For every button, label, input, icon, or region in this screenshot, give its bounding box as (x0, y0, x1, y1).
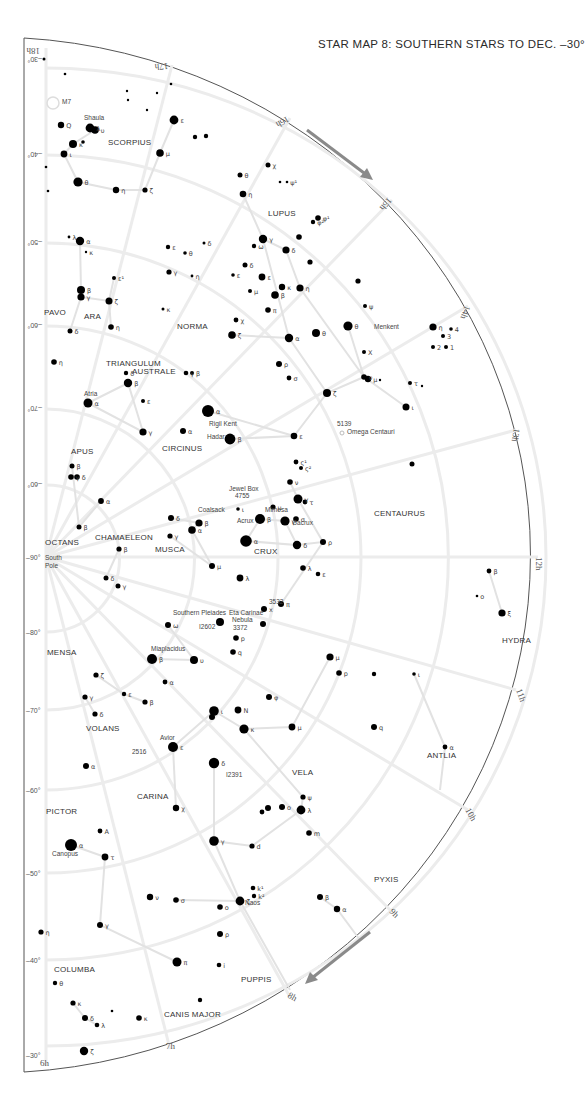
constellation-name: CRUX (254, 547, 278, 556)
star (82, 1015, 88, 1021)
hour-label: 17h (154, 61, 169, 72)
star-label: η (248, 191, 252, 199)
star (180, 428, 186, 434)
star (243, 263, 248, 268)
star (202, 405, 214, 417)
star-label: ρ (328, 539, 332, 547)
star (108, 324, 114, 330)
star (146, 109, 148, 111)
star-label: m (314, 830, 320, 838)
star (64, 73, 67, 76)
star (476, 595, 479, 598)
object-name: Nebula (232, 616, 253, 623)
star-label: β (77, 463, 81, 471)
star-label: μ (373, 376, 377, 384)
star (80, 1047, 88, 1055)
object-name: Mimosa (265, 506, 288, 513)
star-label: 1 (450, 344, 454, 352)
star-label: γ (90, 694, 94, 702)
constellation-name: ANTLIA (427, 751, 457, 760)
declination-label: –70° (27, 405, 42, 412)
declination-label: –60° (26, 787, 41, 794)
star-label: Χ (368, 349, 373, 357)
star (276, 361, 282, 367)
star-label: λ (308, 565, 312, 573)
star (209, 836, 219, 846)
star (294, 495, 303, 504)
star (139, 428, 146, 435)
star-label: q (379, 724, 383, 732)
star (124, 379, 132, 387)
star (113, 187, 119, 193)
star-label: κ (251, 726, 255, 734)
star (188, 526, 196, 534)
star (334, 906, 340, 912)
declination-label: –30° (27, 56, 42, 63)
star (198, 998, 202, 1002)
star (265, 307, 271, 313)
constellation-name: COLUMBA (54, 965, 95, 974)
star (239, 724, 248, 733)
star-label: η (439, 324, 443, 332)
star (53, 981, 57, 985)
declination-label: –90° (26, 554, 41, 561)
star-label: δ (90, 1015, 94, 1023)
star (190, 656, 198, 664)
object-name: Coalsack (198, 506, 225, 513)
star-label: p (344, 670, 348, 678)
star-label: γ (269, 236, 273, 244)
object-name: 3372 (233, 624, 248, 631)
star (168, 515, 174, 521)
star (111, 1010, 114, 1013)
star (193, 135, 197, 139)
declination-label: –60° (27, 481, 42, 488)
star (124, 371, 128, 375)
star-label: κ (78, 1000, 82, 1008)
star (85, 251, 87, 253)
star-label: γ (149, 429, 153, 437)
star-label: α (216, 408, 220, 416)
star-label: π (286, 601, 290, 609)
star-label: ο (287, 804, 291, 812)
star-label: ν (369, 374, 373, 382)
star-label: γ (105, 922, 109, 930)
star (147, 894, 153, 900)
star (296, 284, 303, 291)
star (122, 692, 126, 696)
star-label: ε (147, 398, 151, 406)
star-label: β (159, 656, 163, 664)
star (165, 622, 171, 628)
star-label: χ (273, 162, 277, 170)
star (260, 810, 265, 815)
object-name: Canopus (52, 850, 79, 858)
star (93, 672, 98, 677)
star (251, 886, 256, 891)
star-label: β (196, 370, 200, 378)
star (168, 742, 178, 752)
star-label: κ (79, 141, 83, 149)
object-name: Shaula (84, 114, 105, 121)
star (230, 649, 236, 655)
object-name: Jewel Box (229, 485, 259, 492)
star (403, 404, 410, 411)
star (116, 584, 121, 589)
star-label: ι (242, 506, 244, 514)
star (166, 245, 170, 249)
star (209, 714, 215, 720)
star-label: α (198, 527, 202, 535)
constellation-name: SCORPIUS (108, 138, 151, 147)
star (217, 931, 223, 937)
star-label: υ (200, 657, 204, 665)
star (287, 376, 292, 381)
star (252, 894, 256, 898)
star-label: β (205, 520, 209, 528)
star-label: β (325, 894, 329, 902)
star-label: q (238, 649, 242, 657)
star-label: ε (299, 433, 303, 441)
star (240, 535, 252, 547)
star-label: ρ (284, 361, 288, 369)
constellation-name: CARINA (137, 792, 169, 801)
star-label: p (241, 635, 245, 643)
star (372, 672, 376, 676)
star-label: ψ¹ (290, 179, 297, 187)
